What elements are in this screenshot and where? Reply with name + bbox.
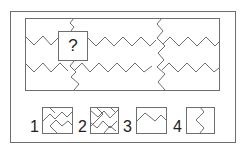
inner-frame — [26, 19, 220, 91]
option-2-figure — [90, 107, 119, 134]
option-4-label[interactable]: 4 — [173, 119, 182, 135]
zigzag-lower-mid — [74, 63, 152, 72]
option-1-label[interactable]: 1 — [30, 119, 39, 135]
zigzag-vert-left-bottom — [70, 61, 79, 90]
question-mark: ? — [58, 31, 88, 61]
option-3-figure — [137, 108, 167, 134]
option-2-label[interactable]: 2 — [78, 119, 87, 135]
option-1-figure — [42, 107, 73, 134]
zigzag-vert-left-top — [70, 18, 74, 31]
option-4-figure — [187, 107, 215, 134]
option-3-label[interactable]: 3 — [123, 119, 132, 135]
zigzag-upper-right — [163, 37, 219, 46]
zigzag-upper-left — [25, 36, 58, 45]
zigzag-upper-mid — [88, 37, 156, 46]
zigzag-lower-right — [162, 63, 219, 72]
zigzag-lower-left — [25, 63, 68, 72]
zigzag-vert-right — [157, 18, 165, 90]
puzzle-figure: ? 1 2 3 4 — [0, 0, 246, 148]
